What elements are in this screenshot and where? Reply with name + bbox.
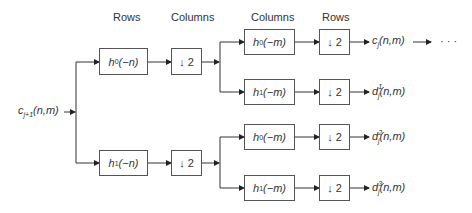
column-filter-h1-b: h1(−m) <box>244 175 295 201</box>
down-arrow-icon: ↓ <box>327 131 333 143</box>
input-signal-label: cj+1(n,m) <box>18 104 59 118</box>
continuation-ellipsis: · · · <box>440 35 457 47</box>
output-detail-2: d2j(n,m) <box>372 129 405 144</box>
down-arrow-icon: ↓ <box>327 86 333 98</box>
header-rows-1: Rows <box>113 11 141 23</box>
row-downsample-3: ↓ 2 <box>319 124 350 150</box>
header-rows-2: Rows <box>322 11 350 23</box>
row-downsample-1: ↓ 2 <box>319 29 350 55</box>
down-arrow-icon: ↓ <box>327 36 333 48</box>
down-arrow-icon: ↓ <box>179 56 185 68</box>
column-filter-h1-a: h1(−m) <box>244 79 295 105</box>
output-approximation: cj(n,m) <box>372 34 405 48</box>
column-downsample-2: ↓ 2 <box>171 150 202 176</box>
row-downsample-2: ↓ 2 <box>319 79 350 105</box>
column-filter-h0-b: h0(−m) <box>244 124 295 150</box>
row-filter-h0: h0(−n) <box>99 48 148 75</box>
output-detail-1: d1j(n,m) <box>372 84 405 99</box>
down-arrow-icon: ↓ <box>327 182 333 194</box>
column-downsample-1: ↓ 2 <box>171 48 202 75</box>
row-downsample-4: ↓ 2 <box>319 175 350 201</box>
header-columns-1: Columns <box>171 11 214 23</box>
row-filter-h1: h1(−n) <box>99 150 148 176</box>
header-columns-2: Columns <box>251 11 294 23</box>
output-detail-3: d3j(n,m) <box>372 180 405 195</box>
column-filter-h0-a: h0(−m) <box>244 29 295 55</box>
down-arrow-icon: ↓ <box>179 157 185 169</box>
